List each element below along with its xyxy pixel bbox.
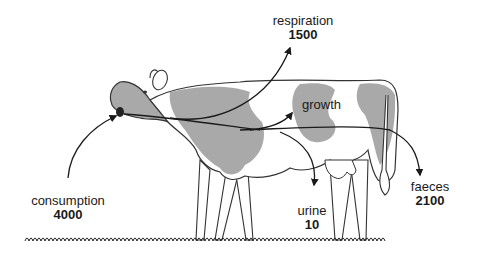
respiration-label: respiration xyxy=(268,14,338,28)
label-respiration: respiration 1500 xyxy=(268,14,338,43)
respiration-value: 1500 xyxy=(268,28,338,42)
arrow-consumption xyxy=(68,116,116,178)
faeces-value: 2100 xyxy=(405,194,455,208)
cow-eye xyxy=(143,91,147,94)
urine-label: urine xyxy=(292,204,332,218)
growth-label: growth xyxy=(302,97,341,112)
label-faeces: faeces 2100 xyxy=(405,180,455,209)
label-consumption: consumption 4000 xyxy=(28,194,108,223)
consumption-label: consumption xyxy=(28,194,108,208)
cow-ear xyxy=(150,68,170,92)
grass xyxy=(25,238,385,241)
cow-nose xyxy=(116,107,124,117)
cow-illustration xyxy=(110,68,398,240)
urine-value: 10 xyxy=(292,218,332,232)
faeces-label: faeces xyxy=(405,180,455,194)
consumption-value: 4000 xyxy=(28,208,108,222)
label-urine: urine 10 xyxy=(292,204,332,233)
